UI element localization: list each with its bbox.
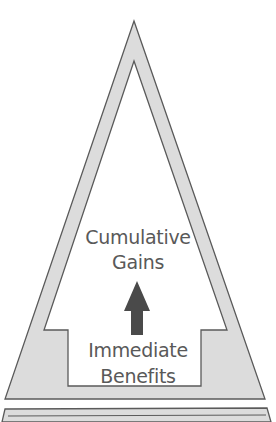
cumulative-label: Cumulative [0,226,276,248]
immediate-label: Immediate [0,339,276,361]
up-arrow-icon [124,281,150,335]
gains-label: Gains [0,251,276,273]
benefits-label: Benefits [0,365,276,387]
pyramid-diagram: Cumulative Gains Immediate Benefits [0,0,276,422]
